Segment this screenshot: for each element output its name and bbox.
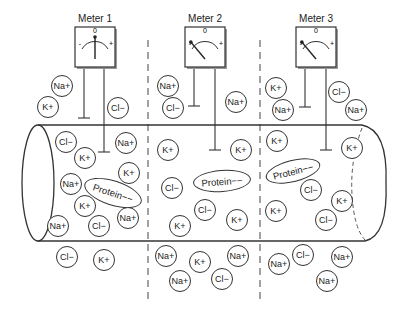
svg-text:0: 0 xyxy=(203,27,207,34)
ion: Na+ xyxy=(60,173,82,195)
svg-text:0: 0 xyxy=(314,27,318,34)
ion: K+ xyxy=(265,77,287,99)
meter-2-label: Meter 2 xyxy=(188,13,222,24)
ion: K+ xyxy=(265,200,287,222)
ion: Cl− xyxy=(55,131,77,153)
ion: K+ xyxy=(118,162,140,184)
ion: Na+ xyxy=(331,246,353,268)
ion: Cl− xyxy=(107,97,129,119)
ion: K+ xyxy=(37,96,59,118)
meter-1-label: Meter 1 xyxy=(78,13,112,24)
ion: K+ xyxy=(74,195,96,217)
ion: Cl− xyxy=(315,209,337,231)
ion: K+ xyxy=(331,190,353,212)
ion: K+ xyxy=(169,215,191,237)
ion: Na+ xyxy=(47,215,69,237)
ion: K+ xyxy=(189,251,211,273)
ion: Na+ xyxy=(268,253,290,275)
ion: K+ xyxy=(230,139,252,161)
ion: Na+ xyxy=(115,132,137,154)
svg-text:+: + xyxy=(219,40,223,47)
ion: Cl− xyxy=(88,215,110,237)
ion: Cl− xyxy=(328,81,350,103)
ion: Na+ xyxy=(157,75,179,97)
ion: K+ xyxy=(226,209,248,231)
svg-text:0: 0 xyxy=(93,27,97,34)
ion: K+ xyxy=(74,147,96,169)
ion: K+ xyxy=(266,130,288,152)
meter-3-label: Meter 3 xyxy=(299,13,333,24)
svg-text:+: + xyxy=(330,40,334,47)
ion: Cl− xyxy=(162,97,184,119)
ion: Na+ xyxy=(345,99,367,121)
ion: Na+ xyxy=(155,245,177,267)
ion: Na+ xyxy=(51,75,73,97)
ion: K+ xyxy=(341,137,363,159)
ion: Na+ xyxy=(316,270,338,292)
ion: Na+ xyxy=(225,91,247,113)
ion: Cl− xyxy=(194,199,216,221)
ion: Na+ xyxy=(272,99,294,121)
ion: K+ xyxy=(157,139,179,161)
svg-text:+: + xyxy=(109,40,113,47)
ion: Na+ xyxy=(227,245,249,267)
ion: Cl− xyxy=(56,246,78,268)
ion: Cl− xyxy=(211,268,233,290)
membrane-potential-diagram: -0+-0+-0+ Meter 1Meter 2Meter 3Na+K+Cl−C… xyxy=(0,0,404,310)
ion: Na+ xyxy=(169,270,191,292)
ion: Cl− xyxy=(161,177,183,199)
ion: Cl− xyxy=(292,244,314,266)
ion: Cl− xyxy=(300,179,322,201)
ion: K+ xyxy=(93,249,115,271)
ion: Na+ xyxy=(117,207,139,229)
